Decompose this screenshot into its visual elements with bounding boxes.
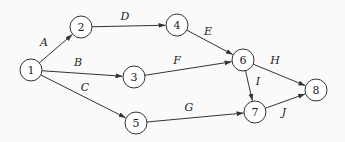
edge-arrow [92, 25, 166, 27]
node-5: 5 [125, 112, 147, 134]
edge-label: H [269, 54, 280, 67]
edge-I: I [245, 71, 260, 101]
network-diagram: ABCDEFGHIJ 12345678 [0, 0, 345, 142]
edge-C: C [41, 75, 126, 118]
edge-arrow [145, 62, 232, 76]
edge-G: G [147, 101, 244, 122]
edge-arrow [42, 71, 123, 76]
node-label: 1 [28, 64, 35, 77]
edge-label: G [185, 101, 194, 114]
node-4: 4 [166, 14, 188, 36]
edge-label: F [172, 54, 181, 67]
edge-label: B [73, 56, 82, 69]
node-label: 5 [133, 117, 140, 130]
node-6: 6 [232, 49, 254, 71]
edge-arrow [147, 113, 244, 122]
node-8: 8 [305, 79, 327, 101]
edge-label: C [81, 81, 90, 94]
node-3: 3 [123, 66, 145, 88]
edge-label: E [203, 25, 212, 38]
node-label: 2 [78, 21, 85, 34]
node-7: 7 [244, 101, 266, 123]
edge-label: J [280, 106, 287, 119]
edge-label: D [120, 10, 130, 23]
node-label: 6 [240, 54, 247, 67]
node-label: 7 [252, 106, 259, 119]
edge-F: F [145, 54, 232, 76]
edge-arrow [253, 64, 305, 85]
node-label: 3 [131, 71, 138, 84]
node-label: 8 [313, 84, 320, 97]
node-2: 2 [70, 16, 92, 38]
edge-label: I [255, 75, 261, 88]
node-label: 4 [174, 19, 181, 32]
edge-J: J [265, 94, 305, 119]
node-1: 1 [20, 59, 42, 81]
edge-arrow [245, 71, 252, 101]
edge-A: A [39, 34, 72, 62]
edge-B: B [42, 56, 123, 77]
edge-H: H [253, 54, 305, 86]
edge-label: A [39, 36, 48, 49]
edge-E: E [187, 25, 233, 55]
edge-D: D [92, 10, 166, 27]
